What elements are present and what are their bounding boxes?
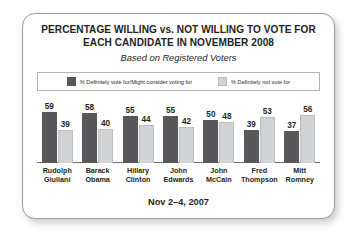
- bar-group: 55 44: [118, 97, 158, 163]
- legend-label-dark: % Definitely vote for/Might consider vot…: [80, 79, 192, 85]
- bar-value-label: 55: [166, 106, 175, 115]
- bar-value-label: 55: [125, 106, 134, 115]
- bar-group: 37 56: [280, 97, 320, 163]
- x-axis-label-line-2: Thompson: [239, 175, 279, 184]
- bar-light[interactable]: [139, 125, 154, 163]
- legend-swatch-icon-dark: [67, 77, 76, 86]
- bar-wrap-dark: 55: [163, 97, 178, 163]
- bar-value-label: 59: [45, 102, 54, 111]
- bar-dark[interactable]: [42, 112, 57, 163]
- bar-value-label: 39: [61, 120, 70, 129]
- bar-dark[interactable]: [203, 120, 218, 163]
- bar-wrap-light: 48: [219, 97, 234, 163]
- bar-value-label: 50: [206, 110, 215, 119]
- legend-swatch-icon-light: [218, 77, 227, 86]
- chart-card: PERCENTAGE WILLING vs. NOT WILLING TO VO…: [22, 13, 335, 219]
- chart-title-line-1: PERCENTAGE WILLING vs. NOT WILLING TO VO…: [41, 24, 315, 35]
- chart-subtitle: Based on Registered Voters: [23, 53, 334, 63]
- legend-item-definitely-not-vote-for[interactable]: % Definitely not vote for: [218, 77, 290, 86]
- legend-item-definitely-vote-for[interactable]: % Definitely vote for/Might consider vot…: [67, 77, 192, 86]
- chart-footnote: Nov 2–4, 2007: [23, 197, 334, 207]
- bar-value-label: 44: [141, 115, 150, 124]
- bar-wrap-light: 39: [58, 97, 73, 163]
- bar-light[interactable]: [58, 130, 73, 164]
- bar-group: 58 40: [77, 97, 117, 163]
- bar-wrap-light: 53: [260, 97, 275, 163]
- bar-wrap-light: 44: [139, 97, 154, 163]
- bar-wrap-light: 40: [98, 97, 113, 163]
- bar-wrap-light: 42: [179, 97, 194, 163]
- bar-dark[interactable]: [244, 130, 259, 164]
- chart-title-line-2: EACH CANDIDATE IN NOVEMBER 2008: [33, 36, 324, 49]
- x-axis-label-hillary-clinton: Hillary Clinton: [118, 166, 158, 184]
- bar-light[interactable]: [260, 117, 275, 163]
- bar-wrap-light: 56: [300, 97, 315, 163]
- bar-value-label: 48: [222, 112, 231, 121]
- bar-dark[interactable]: [82, 113, 97, 163]
- legend-label-light: % Definitely not vote for: [231, 79, 290, 85]
- bar-dark[interactable]: [163, 116, 178, 164]
- chart-legend: % Definitely vote for/Might consider vot…: [37, 72, 320, 91]
- x-axis-label-line-1: Fred: [239, 166, 279, 175]
- x-axis-label-mitt-romney: Mitt Romney: [280, 166, 320, 184]
- x-axis-label-rudolph-giuliani: Rudolph Giuliani: [37, 166, 77, 184]
- bar-value-label: 53: [263, 107, 272, 116]
- x-axis-label-line-1: Barack: [77, 166, 117, 175]
- bar-light[interactable]: [98, 129, 113, 164]
- x-axis-label-john-mccain: John McCain: [199, 166, 239, 184]
- x-axis-labels: Rudolph Giuliani Barack Obama Hillary Cl…: [37, 166, 320, 184]
- x-axis-label-line-1: Rudolph: [37, 166, 77, 175]
- bar-group: 50 48: [199, 97, 239, 163]
- bar-group: 39 53: [239, 97, 279, 163]
- x-axis-label-fred-thompson: Fred Thompson: [239, 166, 279, 184]
- bar-light[interactable]: [300, 115, 315, 164]
- bar-value-label: 56: [303, 105, 312, 114]
- bar-group: 59 39: [37, 97, 77, 163]
- bar-value-label: 37: [287, 121, 296, 130]
- bar-value-label: 42: [182, 117, 191, 126]
- x-axis-label-line-2: Edwards: [158, 175, 198, 184]
- bar-wrap-dark: 37: [284, 97, 299, 163]
- x-axis-label-line-1: John: [158, 166, 198, 175]
- chart-plot-area: 59 39 58 40 55 44: [37, 91, 320, 163]
- chart-title: PERCENTAGE WILLING vs. NOT WILLING TO VO…: [33, 23, 324, 49]
- x-axis-label-line-1: John: [199, 166, 239, 175]
- x-axis-label-john-edwards: John Edwards: [158, 166, 198, 184]
- bar-value-label: 39: [247, 120, 256, 129]
- bar-light[interactable]: [219, 122, 234, 164]
- bar-wrap-dark: 59: [42, 97, 57, 163]
- bar-dark[interactable]: [284, 131, 299, 163]
- bar-wrap-dark: 50: [203, 97, 218, 163]
- x-axis-label-line-2: Romney: [280, 175, 320, 184]
- bar-wrap-dark: 55: [123, 97, 138, 163]
- x-axis-label-line-2: Clinton: [118, 175, 158, 184]
- bar-value-label: 58: [85, 103, 94, 112]
- x-axis-label-line-2: Obama: [77, 175, 117, 184]
- bar-wrap-dark: 39: [244, 97, 259, 163]
- x-axis-label-barack-obama: Barack Obama: [77, 166, 117, 184]
- bar-value-label: 40: [101, 119, 110, 128]
- x-axis-label-line-1: Hillary: [118, 166, 158, 175]
- x-axis-label-line-1: Mitt: [280, 166, 320, 175]
- x-axis-label-line-2: Giuliani: [37, 175, 77, 184]
- bar-light[interactable]: [179, 127, 194, 163]
- bar-dark[interactable]: [123, 116, 138, 164]
- bar-wrap-dark: 58: [82, 97, 97, 163]
- x-axis-label-line-2: McCain: [199, 175, 239, 184]
- bar-group: 55 42: [158, 97, 198, 163]
